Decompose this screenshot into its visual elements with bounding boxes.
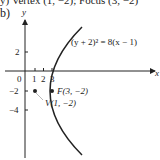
- vertex-point: [33, 89, 37, 93]
- y-tick-neg4: −4: [9, 105, 19, 115]
- x-axis-label: x: [154, 68, 159, 78]
- x-tick-1: 1: [32, 74, 37, 84]
- vertex-leader-line: [36, 93, 43, 100]
- parabola-graph: y x 0 1 2 3 2 −2 −4 (y + 2)² = 8(x − 1) …: [0, 0, 160, 160]
- focus-point: [50, 89, 54, 93]
- y-tick-2: 2: [15, 47, 20, 57]
- vertex-label: V(1, −2): [45, 98, 76, 108]
- equation-label: (y + 2)² = 8(x − 1): [71, 37, 137, 47]
- x-tick-2: 2: [41, 74, 46, 84]
- origin-label: 0: [17, 74, 22, 84]
- y-tick-neg2: −2: [9, 86, 19, 96]
- focus-label: F(3, −2): [56, 86, 88, 96]
- y-axis-label: y: [21, 7, 26, 17]
